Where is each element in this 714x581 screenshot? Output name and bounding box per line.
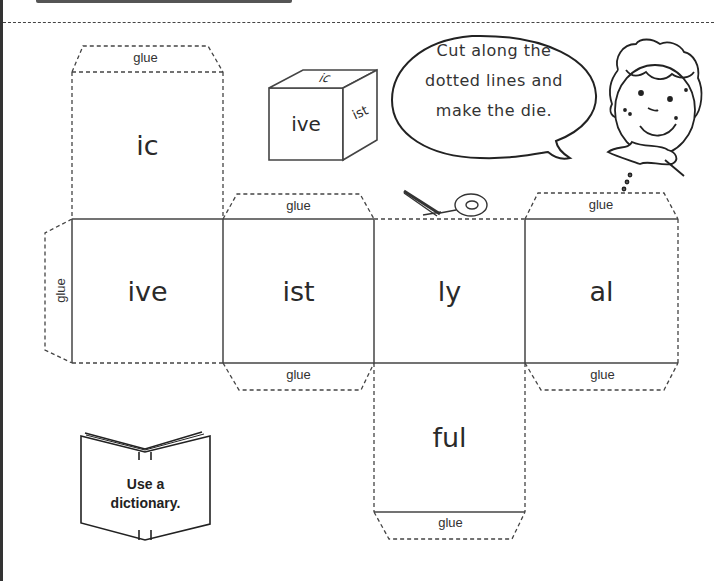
glue-tab-label: glue: [538, 197, 664, 212]
boy-character-icon: [608, 40, 701, 191]
glue-tab-label: glue: [237, 367, 360, 382]
tip-line: dictionary.: [88, 494, 203, 513]
glue-tab-label: glue: [53, 271, 68, 311]
die-face-ist: ist: [223, 219, 374, 363]
die-face-ic: ic: [72, 72, 223, 219]
glue-tab-label: glue: [541, 367, 664, 382]
die-face-ly: ly: [374, 219, 525, 363]
die-face-ful: ful: [374, 363, 525, 512]
cube-top-label: ic: [302, 69, 349, 87]
instruction-line: Cut along the: [394, 36, 594, 66]
scissors-icon: [404, 191, 487, 216]
instruction-line: dotted lines and: [394, 66, 594, 96]
glue-tab-label: glue: [83, 50, 208, 65]
instruction-line: make the die.: [394, 96, 594, 126]
dictionary-tip: Use a dictionary.: [88, 475, 203, 513]
instruction-speech: Cut along the dotted lines and make the …: [394, 36, 594, 126]
glue-tab-label: glue: [389, 515, 512, 530]
cube-front-label: ive: [269, 88, 343, 160]
tip-line: Use a: [88, 475, 203, 494]
die-face-al: al: [525, 219, 678, 363]
glue-tab-label: glue: [237, 198, 360, 213]
die-face-ive: ive: [72, 219, 223, 363]
